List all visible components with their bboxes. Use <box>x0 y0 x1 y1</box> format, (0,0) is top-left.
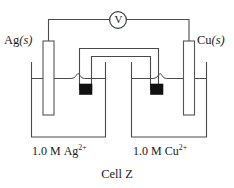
right-solution-species: Cu <box>165 144 179 158</box>
left-solution-label: 1.0 M Ag2+ <box>32 145 87 157</box>
right-solution-concentration: 1.0 M <box>133 144 162 158</box>
salt-bridge-inner <box>92 57 151 91</box>
right-electrode-label: Cu(s) <box>197 34 225 47</box>
figure-caption: Cell Z <box>0 167 234 182</box>
right-beaker <box>132 62 207 137</box>
left-electrode <box>43 41 54 115</box>
electrochemical-cell-figure: V Ag(s) Cu(s) 1.0 M Ag2+ 1.0 M Cu2+ Cell… <box>0 0 234 188</box>
right-surface <box>132 74 207 79</box>
left-solution-concentration: 1.0 M <box>32 144 61 158</box>
right-electrode-element: Cu <box>197 33 212 47</box>
cell-diagram-svg <box>0 0 234 188</box>
right-wire <box>126 20 189 42</box>
left-electrode-element: Ag <box>4 33 19 47</box>
left-electrode-label: Ag(s) <box>4 34 32 47</box>
right-salt-bridge-plug <box>151 84 164 95</box>
right-electrode-state: (s) <box>212 33 225 47</box>
left-solution-charge: 2+ <box>78 143 86 152</box>
right-solution-label: 1.0 M Cu2+ <box>133 145 187 157</box>
left-wire <box>49 20 111 42</box>
left-electrode-state: (s) <box>19 33 32 47</box>
left-salt-bridge-plug <box>80 84 93 95</box>
right-solution-charge: 2+ <box>179 143 187 152</box>
left-solution-species: Ag <box>64 144 79 158</box>
voltmeter-label: V <box>110 13 127 25</box>
right-electrode <box>184 41 195 115</box>
